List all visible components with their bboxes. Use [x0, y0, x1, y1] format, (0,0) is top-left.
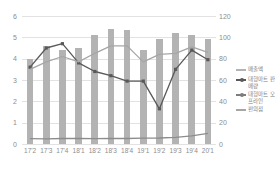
x-axis-tick: 19'3	[170, 147, 182, 155]
left-axis-tick: 2	[13, 98, 17, 105]
left-axis-tick: 4	[13, 55, 17, 62]
x-axis-tick: 18'4	[121, 147, 133, 155]
right-axis-tick: 100	[219, 34, 231, 41]
right-axis-tick: 120	[219, 13, 231, 20]
gridline	[22, 144, 216, 145]
x-axis-tick: 19'4	[186, 147, 198, 155]
legend-label: 대형마트 오프라인	[248, 91, 275, 104]
x-axis-tick: 17'2	[24, 147, 36, 155]
legend-swatch-icon	[236, 69, 246, 71]
right-axis-tick: 40	[219, 98, 227, 105]
left-axis-tick: 5	[13, 34, 17, 41]
chart-container: 0123456 020406080100120 17'217'317'418'1…	[0, 0, 275, 173]
x-axis-tick: 19'2	[153, 147, 165, 155]
legend-swatch-icon	[236, 79, 246, 81]
left-axis: 0123456	[0, 0, 20, 173]
legend-swatch-icon	[236, 94, 246, 96]
right-axis-tick: 0	[219, 141, 223, 148]
data-point-marker	[174, 68, 177, 71]
right-axis-tick: 80	[219, 55, 227, 62]
legend-item[interactable]: 매출액	[236, 66, 275, 74]
legend-item[interactable]: 대형마트 오프라인	[236, 91, 275, 104]
x-axis-tick: 18'3	[105, 147, 117, 155]
data-point-marker	[45, 46, 48, 49]
line-path	[30, 44, 208, 109]
x-axis: 17'217'317'418'118'218'318'419'119'219'3…	[22, 147, 216, 161]
data-point-marker	[109, 74, 112, 77]
legend-item[interactable]: 편의점	[236, 106, 275, 114]
legend-label: 매출액	[248, 66, 275, 73]
data-point-marker	[61, 42, 64, 45]
line-path	[30, 46, 208, 69]
data-point-marker	[93, 70, 96, 73]
x-axis-tick: 20'1	[202, 147, 214, 155]
data-point-marker	[126, 80, 129, 83]
line-series	[22, 16, 216, 144]
legend-swatch-icon	[236, 109, 246, 111]
legend-label: 대형마트 판매량	[248, 76, 275, 89]
data-point-marker	[206, 58, 209, 61]
right-axis-tick: 60	[219, 77, 227, 84]
left-axis-tick: 0	[13, 141, 17, 148]
x-axis-tick: 17'3	[40, 147, 52, 155]
x-axis-tick: 18'2	[89, 147, 101, 155]
x-axis-tick: 19'1	[137, 147, 149, 155]
chart-legend: 매출액대형마트 판매량대형마트 오프라인편의점	[236, 66, 275, 116]
x-axis-tick: 18'1	[73, 147, 85, 155]
legend-item[interactable]: 대형마트 판매량	[236, 76, 275, 89]
data-point-marker	[158, 107, 161, 110]
line-path	[30, 133, 208, 139]
data-point-marker	[190, 49, 193, 52]
plot-area	[22, 16, 216, 144]
x-axis-tick: 17'4	[56, 147, 68, 155]
left-axis-tick: 1	[13, 119, 17, 126]
right-axis-tick: 20	[219, 119, 227, 126]
left-axis-tick: 6	[13, 13, 17, 20]
left-axis-tick: 3	[13, 77, 17, 84]
data-point-marker	[142, 80, 145, 83]
legend-label: 편의점	[248, 106, 275, 113]
